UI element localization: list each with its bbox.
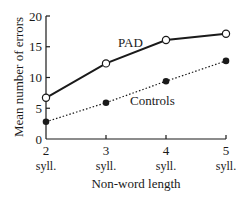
x-tick-labels: 2 3 4 5 syll. syll. syll. syll.: [36, 143, 236, 173]
x-sublabel-4: syll.: [156, 159, 176, 173]
y-tick-15: 15: [29, 39, 42, 54]
line-chart: 20 15 10 5 0 2 3 4 5 syll. syll. syll. s…: [0, 0, 245, 203]
pad-point-2: [42, 94, 49, 101]
controls-point-2: [43, 119, 50, 126]
y-tick-20: 20: [29, 9, 42, 24]
x-tick-4: 4: [163, 143, 170, 158]
controls-line: [46, 61, 226, 122]
pad-point-3: [102, 60, 109, 67]
y-tick-10: 10: [29, 70, 42, 85]
y-tick-5: 5: [36, 101, 43, 116]
y-tick-labels: 20 15 10 5 0: [29, 9, 42, 147]
series-controls: [43, 58, 230, 126]
x-sublabel-3: syll.: [96, 159, 116, 173]
x-tick-3: 3: [103, 143, 110, 158]
pad-point-4: [162, 36, 169, 43]
pad-point-5: [222, 30, 229, 37]
controls-point-3: [103, 99, 110, 106]
x-sublabel-5: syll.: [216, 159, 236, 173]
pad-series-label: PAD: [118, 35, 143, 50]
chart-canvas: 20 15 10 5 0 2 3 4 5 syll. syll. syll. s…: [0, 0, 245, 203]
x-tick-5: 5: [223, 143, 230, 158]
x-tick-2: 2: [43, 143, 50, 158]
controls-series-label: Controls: [130, 93, 175, 108]
y-axis-title: Mean number of errors: [11, 17, 26, 137]
controls-point-5: [223, 58, 230, 65]
x-axis-title: Non-word length: [91, 176, 181, 191]
controls-point-4: [163, 78, 170, 85]
x-sublabel-2: syll.: [36, 159, 56, 173]
y-tick-0: 0: [36, 132, 43, 147]
